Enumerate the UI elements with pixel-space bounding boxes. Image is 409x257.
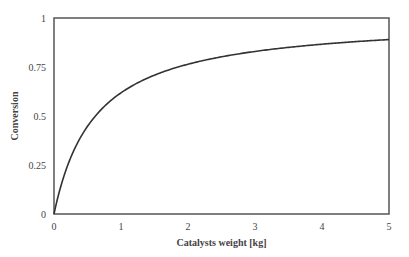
x-tick-label: 1	[119, 221, 124, 232]
y-tick-label: 1	[41, 13, 46, 24]
plot-frame	[54, 18, 389, 214]
y-tick-label: 0.25	[29, 160, 47, 171]
x-axis-ticks: 012345	[52, 221, 392, 232]
y-axis-ticks: 00.250.50.751	[29, 13, 47, 220]
conversion-curve	[54, 40, 389, 214]
y-tick-label: 0	[41, 209, 46, 220]
x-tick-label: 2	[186, 221, 191, 232]
x-tick-label: 5	[387, 221, 392, 232]
line-chart: 00.250.50.751 012345 Catalysts weight [k…	[0, 0, 409, 257]
x-axis-label: Catalysts weight [kg]	[177, 237, 267, 248]
y-tick-label: 0.75	[29, 62, 47, 73]
y-axis-label: Conversion	[9, 91, 20, 140]
x-tick-label: 4	[320, 221, 325, 232]
x-tick-label: 0	[52, 221, 57, 232]
x-tick-label: 3	[253, 221, 258, 232]
y-tick-label: 0.5	[34, 111, 47, 122]
